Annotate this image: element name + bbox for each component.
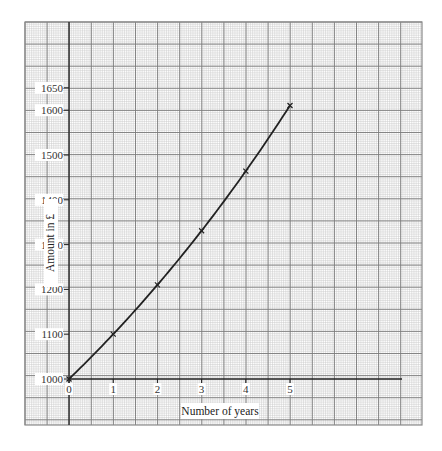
y-axis-title-group: Amount in £ (44, 199, 58, 287)
x-tick-label: 0 (66, 383, 72, 395)
x-tick-label: 4 (243, 383, 249, 395)
x-tick-label: 3 (199, 383, 205, 395)
compound-growth-chart: 10001100120013001400150016001650 012345 … (0, 0, 442, 451)
x-tick-label: 5 (287, 383, 293, 395)
y-tick-label: 1500 (41, 149, 64, 161)
x-axis-title-group: Number of years (181, 403, 259, 419)
y-tick-label: 1600 (41, 104, 64, 116)
y-tick-label: 1000 (41, 373, 64, 385)
x-tick-label: 1 (110, 383, 116, 395)
y-axis-title: Amount in £ (44, 214, 56, 272)
chart-canvas: 10001100120013001400150016001650 012345 … (0, 0, 442, 451)
y-tick-label: 1650 (41, 82, 64, 94)
x-tick-label: 2 (155, 383, 161, 395)
y-tick-label: 1100 (41, 328, 63, 340)
x-axis-title: Number of years (181, 405, 259, 418)
